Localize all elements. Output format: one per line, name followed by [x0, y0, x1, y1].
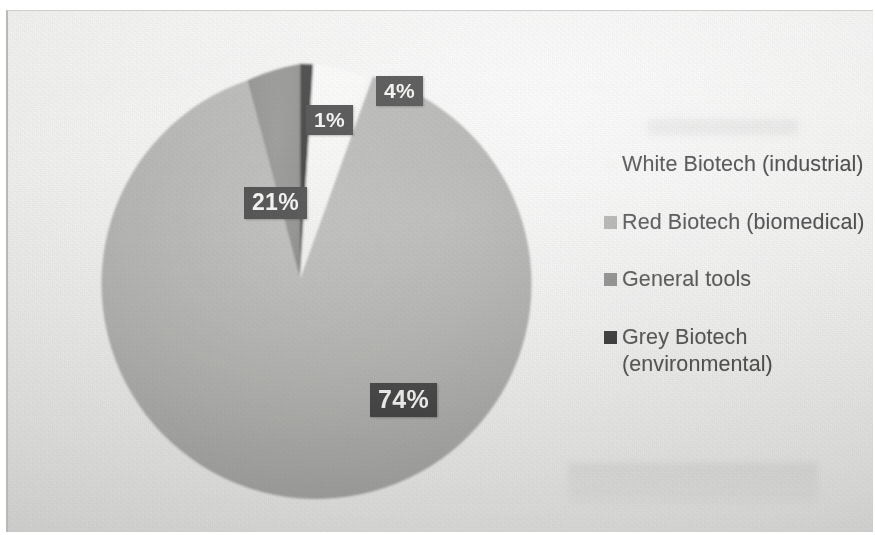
slide-frame: 1% 4% 21% 74% White Biotech (industrial)…	[6, 10, 873, 532]
scanned-slide-page: 1% 4% 21% 74% White Biotech (industrial)…	[0, 0, 875, 535]
data-label-white-biotech: 4%	[376, 76, 423, 106]
legend-item-grey-biotech: Grey Biotech (environmental)	[604, 324, 872, 379]
data-label-general-tools: 21%	[244, 187, 307, 219]
legend-swatch-white-icon	[604, 158, 617, 171]
legend-label-white-biotech: White Biotech (industrial)	[622, 151, 864, 179]
pie-chart: 1% 4% 21% 74%	[58, 31, 538, 511]
legend-item-general-tools: General tools	[604, 266, 872, 294]
legend-item-red-biotech: Red Biotech (biomedical)	[604, 209, 872, 237]
chart-legend: White Biotech (industrial) Red Biotech (…	[604, 151, 872, 379]
legend-label-grey-biotech: Grey Biotech (environmental)	[622, 324, 773, 379]
data-label-grey-biotech: 1%	[306, 105, 353, 135]
scan-artifact-bottom	[568, 463, 818, 503]
legend-label-red-biotech: Red Biotech (biomedical)	[622, 209, 865, 237]
scan-artifact-top	[648, 119, 798, 135]
legend-swatch-grey-icon	[604, 331, 617, 344]
legend-item-white-biotech: White Biotech (industrial)	[604, 151, 872, 179]
legend-swatch-general-icon	[604, 273, 617, 286]
legend-label-general-tools: General tools	[622, 266, 751, 294]
data-label-red-biotech: 74%	[370, 383, 437, 417]
legend-swatch-red-icon	[604, 216, 617, 229]
pie-chart-svg	[58, 31, 538, 511]
